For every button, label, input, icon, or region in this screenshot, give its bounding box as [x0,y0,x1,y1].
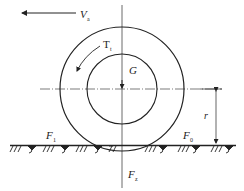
torque-label: T t [103,38,112,52]
svg-text:F: F [182,129,190,141]
svg-text:t: t [110,46,112,52]
weight-label: G [129,64,137,76]
friction-left-label: F 1 [45,129,56,143]
radius-label: r [204,110,208,121]
svg-text:1: 1 [53,137,56,143]
svg-text:F: F [45,129,53,141]
svg-text:z: z [135,176,138,182]
normal-force-label: F z [127,168,138,182]
svg-text:a: a [87,16,90,22]
svg-text:F: F [127,168,135,180]
friction-right-label: F 0 [182,129,193,143]
svg-text:0: 0 [190,137,193,143]
velocity-label: V a [80,8,90,22]
ground-hatching [10,146,233,153]
svg-text:T: T [103,38,110,50]
torque-arrow [77,46,100,71]
wheel-force-diagram: V a T t G r F 1 F 0 [0,0,244,191]
